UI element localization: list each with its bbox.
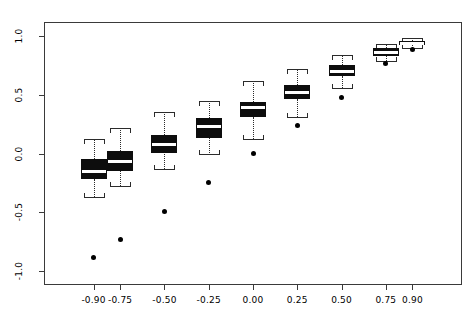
boxplot-box-group — [0, 0, 471, 314]
median-line — [400, 42, 424, 45]
outlier-point — [410, 47, 415, 52]
upper-whisker-cap — [402, 38, 422, 39]
boxplot-chart: 1.00.50.0-0.5-1.0 -0.90-0.75-0.50-0.250.… — [0, 0, 471, 314]
